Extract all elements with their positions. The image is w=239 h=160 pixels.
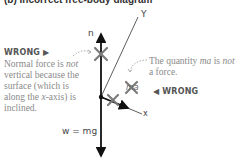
wrong-label-left: WRONG ▶ <box>4 48 49 57</box>
ma-label: ma <box>126 83 139 92</box>
normal-force-note: Normal force is not vertical because the… <box>4 59 90 114</box>
weight-label: w = mg <box>62 126 97 136</box>
x-axis-label: x <box>143 109 148 118</box>
note-pointer-left <box>73 51 90 56</box>
origin-dot <box>99 95 103 99</box>
y-axis-label: Y <box>141 9 147 19</box>
note-pointer-right <box>130 60 147 71</box>
normal-force-label: n <box>88 28 94 38</box>
wrong-label-right: ◀ WRONG <box>153 87 198 96</box>
ma-note: The quantity ma is not a force. <box>149 56 237 78</box>
